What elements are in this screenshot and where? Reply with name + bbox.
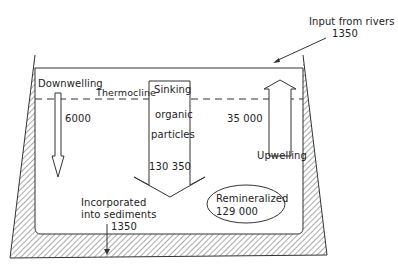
sediments-value: 1350	[111, 221, 137, 232]
sinking-label-3: particles	[151, 129, 195, 140]
input-rivers-value: 1350	[332, 28, 358, 39]
remineralized-value: 129 000	[216, 206, 258, 217]
input-rivers-label: Input from rivers	[309, 16, 395, 27]
thermocline-label: Thermocline	[96, 87, 156, 98]
ocean-basin-diagram	[0, 0, 398, 272]
downwelling-label: Downwelling	[38, 78, 103, 89]
sinking-label-2: organic	[155, 109, 193, 120]
downwelling-value: 6000	[65, 113, 91, 124]
sinking-value: 130 350	[149, 161, 191, 172]
upwelling-value: 35 000	[227, 113, 263, 124]
remineralized-label: Remineralized	[216, 193, 289, 204]
upwelling-arrow-icon	[264, 80, 296, 156]
sediments-label-2: into sediments	[81, 209, 157, 220]
river-input-arrow-icon	[273, 38, 326, 63]
sinking-label-1: Sinking	[154, 84, 191, 95]
sediments-label-1: Incorporated	[81, 197, 146, 208]
remineralized-ellipse	[207, 185, 285, 223]
upwelling-label: Upwelling	[257, 150, 307, 161]
